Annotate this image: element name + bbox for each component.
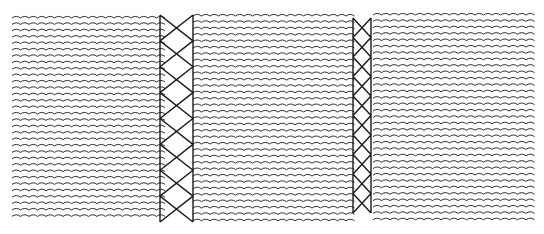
middle-panel	[193, 14, 355, 220]
wave-panels	[12, 13, 535, 220]
right-lattice-band	[353, 18, 371, 213]
diagram-canvas	[0, 0, 544, 234]
left-lattice-band	[160, 15, 193, 222]
left-panel	[12, 16, 165, 216]
right-panel	[373, 13, 535, 219]
